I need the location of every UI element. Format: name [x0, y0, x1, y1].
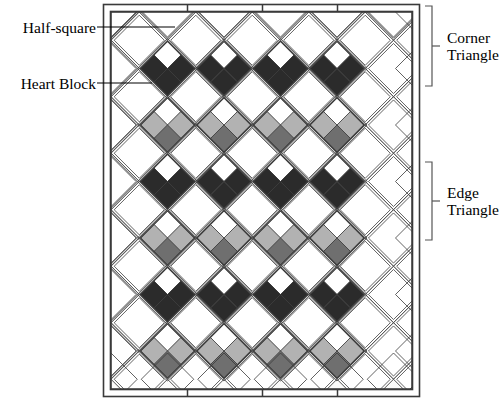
label-corner-triangle-line1: Corner — [447, 29, 490, 46]
label-edge-triangle-line2: Triangle — [447, 201, 499, 218]
field-blocks — [83, 0, 450, 408]
quilt-body — [83, 0, 450, 408]
quilt-diagram-figure: Half-square Heart Block Corner Triangle … — [0, 0, 504, 409]
label-edge-triangle-line1: Edge — [447, 184, 479, 201]
quilt-schematic-svg — [0, 0, 504, 409]
label-half-square: Half-square — [4, 19, 96, 36]
quilt-field — [83, 0, 450, 408]
label-corner-triangle-line2: Triangle — [447, 46, 499, 63]
label-heart-block: Heart Block — [4, 75, 96, 92]
